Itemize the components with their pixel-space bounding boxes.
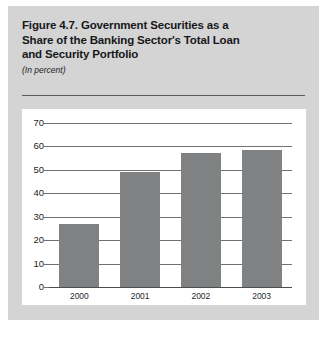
figure-header: Figure 4.7. Government Securities as a S…: [22, 18, 294, 75]
y-tick-mark-70: [44, 123, 49, 124]
x-axis-line: [49, 287, 292, 288]
title-divider: [22, 95, 305, 96]
y-tick-mark-20: [44, 240, 49, 241]
y-tick-label-60: 60: [22, 141, 44, 151]
figure-title-line-2: Share of the Banking Sector's Total Loan: [22, 33, 294, 48]
gridline-70: [49, 123, 292, 124]
y-tick-mark-60: [44, 146, 49, 147]
y-tick-mark-50: [44, 170, 49, 171]
y-tick-mark-30: [44, 217, 49, 218]
bar-2000: [59, 224, 99, 287]
figure-title: Figure 4.7. Government Securities as a S…: [22, 18, 294, 62]
y-tick-mark-10: [44, 264, 49, 265]
x-tick-label-2000: 2000: [49, 291, 110, 301]
y-tick-mark-40: [44, 193, 49, 194]
figure-panel: Figure 4.7. Government Securities as a S…: [8, 6, 319, 320]
y-tick-label-50: 50: [22, 165, 44, 175]
chart-plot-area: 010203040506070 2000200120022003: [22, 109, 306, 305]
figure-subtitle: (In percent): [22, 65, 294, 75]
y-tick-label-0: 0: [22, 282, 44, 292]
y-tick-label-20: 20: [22, 235, 44, 245]
bar-2003: [242, 150, 282, 287]
y-tick-label-10: 10: [22, 259, 44, 269]
bar-2001: [120, 172, 160, 287]
x-tick-label-2002: 2002: [171, 291, 232, 301]
x-tick-label-2003: 2003: [231, 291, 292, 301]
y-tick-label-30: 30: [22, 212, 44, 222]
figure-title-line-1: Figure 4.7. Government Securities as a: [22, 18, 294, 33]
chart-canvas: 010203040506070 2000200120022003: [22, 109, 306, 305]
y-tick-label-70: 70: [22, 118, 44, 128]
x-tick-label-2001: 2001: [110, 291, 171, 301]
y-tick-label-40: 40: [22, 188, 44, 198]
gridline-60: [49, 146, 292, 147]
figure-title-line-3: and Security Portfolio: [22, 47, 294, 62]
bar-2002: [181, 153, 221, 287]
